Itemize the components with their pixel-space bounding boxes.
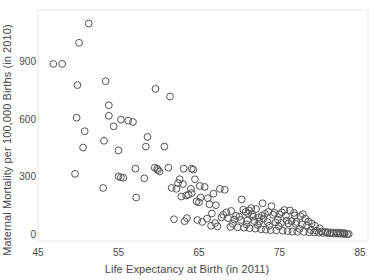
x-tick-label: 65 (184, 247, 214, 258)
data-point (101, 137, 108, 144)
data-point (118, 116, 125, 123)
data-point (178, 193, 185, 200)
data-point (115, 147, 122, 154)
data-point (171, 216, 178, 223)
data-point (152, 86, 159, 93)
data-point (105, 102, 112, 109)
data-point (176, 176, 183, 183)
data-point (50, 61, 57, 68)
data-point (167, 93, 174, 100)
data-point (168, 185, 175, 192)
data-point (72, 170, 79, 177)
data-point (183, 192, 190, 199)
plot-canvas (0, 0, 374, 280)
data-point (74, 82, 81, 89)
data-point (206, 201, 213, 208)
data-point (141, 175, 148, 182)
y-tick-label: 900 (10, 56, 36, 67)
x-tick-label: 45 (23, 247, 53, 258)
y-tick-label: 0 (10, 229, 36, 240)
data-point (81, 128, 88, 135)
y-tick-label: 600 (10, 114, 36, 125)
data-point (110, 123, 117, 130)
data-point (180, 181, 187, 188)
data-point (180, 165, 187, 172)
data-point (259, 200, 266, 207)
data-points-layer (50, 20, 352, 237)
data-point (102, 78, 109, 85)
data-point (142, 143, 149, 150)
data-point (125, 117, 132, 124)
data-point (85, 20, 92, 27)
data-point (208, 210, 215, 217)
data-point (271, 209, 278, 216)
data-point (196, 183, 203, 190)
data-point (100, 185, 107, 192)
scatter-chart: Life Expectancy at Birth (in 2011) Mater… (0, 0, 374, 280)
data-point (73, 114, 80, 121)
data-point (221, 186, 228, 193)
data-point (130, 119, 137, 126)
y-tick-label: 300 (10, 171, 36, 182)
data-point (76, 39, 83, 46)
x-tick-label: 75 (265, 247, 295, 258)
x-tick-label: 55 (104, 247, 134, 258)
data-point (201, 184, 208, 191)
data-point (105, 112, 112, 119)
data-point (217, 185, 224, 192)
data-point (133, 194, 140, 201)
data-point (59, 61, 66, 68)
data-point (234, 224, 241, 231)
x-axis-title: Life Expectancy at Birth (in 2011) (0, 263, 374, 275)
data-point (238, 196, 245, 203)
x-tick-label: 85 (345, 247, 374, 258)
data-point (213, 202, 220, 209)
data-point (144, 134, 151, 141)
data-point (165, 164, 172, 171)
data-point (132, 165, 139, 172)
plot-frame (38, 10, 368, 241)
data-point (80, 144, 87, 151)
data-point (161, 143, 168, 150)
data-point (192, 176, 199, 183)
